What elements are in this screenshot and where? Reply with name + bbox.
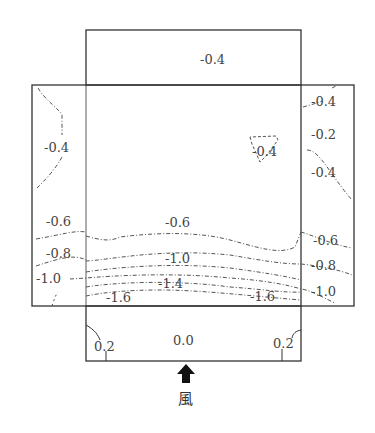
- svg-text:-0.6: -0.6: [165, 215, 190, 230]
- svg-text:-1.6: -1.6: [106, 290, 131, 305]
- leeward-roof-panel: [86, 30, 301, 85]
- roof-label: -0.4: [200, 52, 225, 67]
- svg-text:-0.4: -0.4: [44, 140, 69, 155]
- svg-text:-1.6: -1.6: [250, 289, 275, 304]
- svg-text:-0.2: -0.2: [311, 127, 336, 142]
- svg-text:0.0: 0.0: [173, 333, 194, 348]
- contour-lines: [36, 86, 352, 306]
- svg-text:-0.6: -0.6: [313, 233, 338, 248]
- svg-text:-0.4: -0.4: [311, 165, 336, 180]
- building-outline: [32, 30, 354, 361]
- wind-label: 風: [178, 390, 193, 408]
- svg-text:-1.0: -1.0: [36, 271, 61, 286]
- wind-arrow-icon: [177, 364, 195, 383]
- svg-text:-0.6: -0.6: [46, 214, 71, 229]
- svg-text:-1.4: -1.4: [158, 276, 183, 291]
- svg-text:0.2: 0.2: [94, 339, 115, 354]
- pressure-labels: -0.4 -0.4 -0.6 -0.8 -1.0 -0.4 -0.2 -0.4 …: [36, 52, 338, 354]
- svg-text:-0.4: -0.4: [311, 94, 336, 109]
- main-plan-panel: [32, 85, 354, 306]
- svg-text:-1.0: -1.0: [311, 284, 336, 299]
- pressure-contour-diagram: -0.4 -0.4 -0.6 -0.8 -1.0 -0.4 -0.2 -0.4 …: [0, 0, 375, 433]
- svg-text:-0.4: -0.4: [252, 144, 277, 159]
- svg-text:0.2: 0.2: [273, 336, 294, 351]
- svg-text:-1.0: -1.0: [165, 251, 190, 266]
- svg-text:-0.8: -0.8: [46, 246, 71, 261]
- svg-text:-0.8: -0.8: [311, 258, 336, 273]
